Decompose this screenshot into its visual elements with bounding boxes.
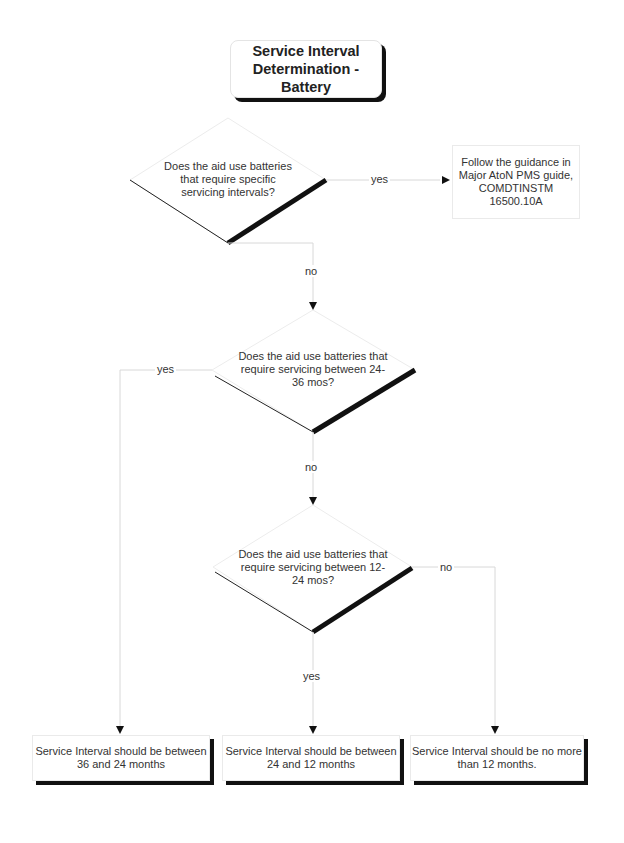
edge-label-d1-yes: yes [369, 173, 390, 185]
decision-2-text: Does the aid use batteries that require … [238, 350, 388, 389]
arrowheads [116, 176, 499, 734]
flowchart-title: Service Interval Determination - Battery [230, 40, 382, 98]
outcome-36-24-months: Service Interval should be between 36 an… [32, 735, 210, 781]
edge-label-d3-yes: yes [301, 670, 322, 682]
connector-lines [120, 180, 495, 728]
outcome-24-12-months: Service Interval should be between 24 an… [222, 735, 400, 781]
decision-3-text: Does the aid use batteries that require … [238, 548, 388, 587]
decision-1-text: Does the aid use batteries that require … [158, 160, 298, 199]
outcome-max-12-months: Service Interval should be no more than … [410, 735, 584, 781]
edge-label-d2-no: no [303, 461, 319, 473]
edge-label-d3-no: no [438, 561, 454, 573]
process-major-aton-guidance: Follow the guidance in Major AtoN PMS gu… [452, 145, 580, 219]
edge-label-d1-no: no [303, 265, 319, 277]
edge-label-d2-yes: yes [155, 363, 176, 375]
flowchart-connectors [0, 0, 624, 843]
